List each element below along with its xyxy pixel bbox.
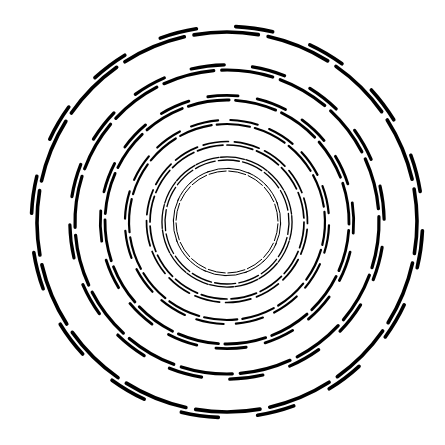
offset-dash: [100, 211, 101, 241]
offset-dash: [352, 203, 353, 233]
spiral-illusion-canvas: [0, 0, 445, 445]
offset-dash: [208, 95, 238, 96]
offset-dash: [216, 347, 246, 348]
